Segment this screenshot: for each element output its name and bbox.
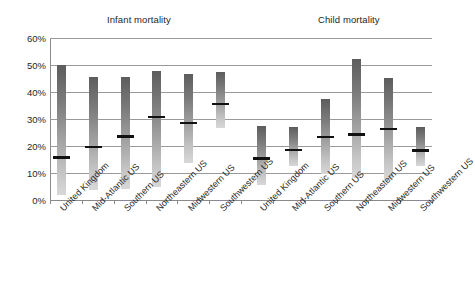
y-axis-tick-labels: 60%50%40%30%20%10%0%	[0, 38, 46, 200]
gridline	[50, 146, 432, 147]
median-marker	[317, 136, 334, 139]
median-marker	[285, 149, 302, 152]
gridline	[50, 65, 432, 66]
gridline	[50, 92, 432, 93]
range-bar	[216, 72, 225, 128]
y-tick-label: 40%	[27, 87, 46, 98]
y-tick-label: 30%	[27, 114, 46, 125]
median-marker	[53, 156, 70, 159]
y-tick-label: 60%	[27, 33, 46, 44]
median-marker	[348, 133, 365, 136]
range-bar	[352, 59, 361, 179]
y-tick-label: 10%	[27, 168, 46, 179]
range-bar	[416, 127, 425, 166]
y-tick-label: 20%	[27, 141, 46, 152]
gridline	[50, 38, 432, 39]
plot-area	[50, 38, 432, 200]
gridline	[50, 119, 432, 120]
median-marker	[117, 135, 134, 138]
range-bar	[289, 127, 298, 166]
median-marker	[148, 116, 165, 119]
group-title-infant-mortality: Infant mortality	[107, 14, 171, 25]
median-marker	[212, 103, 229, 106]
range-bar	[184, 74, 193, 163]
median-marker	[180, 122, 197, 125]
median-marker	[380, 128, 397, 131]
median-marker	[85, 146, 102, 149]
y-tick-label: 50%	[27, 60, 46, 71]
range-bar	[57, 65, 66, 194]
group-title-child-mortality: Child mortality	[318, 14, 380, 25]
gridline	[50, 173, 432, 174]
x-axis-tick-labels: United KingdomMid-Atlantic USSouthern US…	[0, 204, 446, 289]
median-marker	[412, 149, 429, 152]
